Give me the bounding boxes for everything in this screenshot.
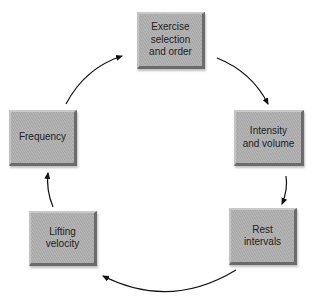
node-exercise-selection: Exercise selection and order <box>137 12 205 69</box>
node-rest-intervals: Rest intervals <box>229 208 297 265</box>
node-label: Intensity and volume <box>243 125 295 150</box>
node-label: Lifting velocity <box>46 226 79 251</box>
node-lifting-velocity: Lifting velocity <box>29 211 97 266</box>
arrow-exercise-to-intensity <box>217 58 268 104</box>
node-intensity-volume: Intensity and volume <box>234 110 304 166</box>
arrow-rest-to-velocity <box>103 270 236 292</box>
node-label: Frequency <box>19 131 66 144</box>
arrow-frequency-to-exercise <box>66 56 122 104</box>
node-frequency: Frequency <box>9 110 77 166</box>
node-label: Rest intervals <box>244 224 281 249</box>
arrow-intensity-to-rest <box>282 176 287 204</box>
arrow-velocity-to-frequency <box>48 173 53 207</box>
node-label: Exercise selection and order <box>149 21 192 59</box>
